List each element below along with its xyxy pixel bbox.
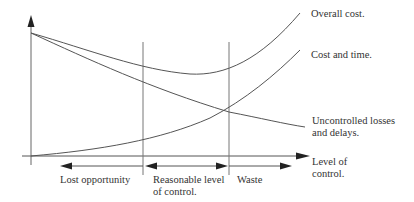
label-overall-cost: Overall cost. <box>311 8 365 19</box>
y-axis <box>28 15 35 165</box>
x-axis <box>22 153 310 160</box>
lost-opportunity-arrow-icon <box>60 163 72 170</box>
x-axis-arrow-icon <box>296 153 310 160</box>
label-uncontrolled-losses-2: and delays. <box>312 127 359 138</box>
y-axis-arrow-icon <box>28 15 35 27</box>
waste-arrow-icon <box>280 163 292 170</box>
reasonable-right-arrow-icon <box>216 163 228 170</box>
label-zone-lost-opportunity: Lost opportunity <box>60 174 130 185</box>
uncontrolled-losses-curve <box>31 33 305 127</box>
label-zone-reasonable-2: of control. <box>153 186 197 197</box>
label-x-axis-2: control. <box>312 168 344 179</box>
diagram-canvas <box>0 0 414 202</box>
cost-and-time-curve <box>31 50 300 156</box>
label-uncontrolled-losses-1: Uncontrolled losses <box>312 115 395 126</box>
label-zone-waste: Waste <box>237 174 262 185</box>
overall-cost-curve <box>31 13 300 74</box>
label-x-axis-1: Level of <box>312 156 347 167</box>
label-zone-reasonable-1: Reasonable level <box>153 174 224 185</box>
label-cost-and-time: Cost and time. <box>311 49 372 60</box>
zone-arrows <box>60 163 292 170</box>
reasonable-left-arrow-icon <box>145 163 157 170</box>
